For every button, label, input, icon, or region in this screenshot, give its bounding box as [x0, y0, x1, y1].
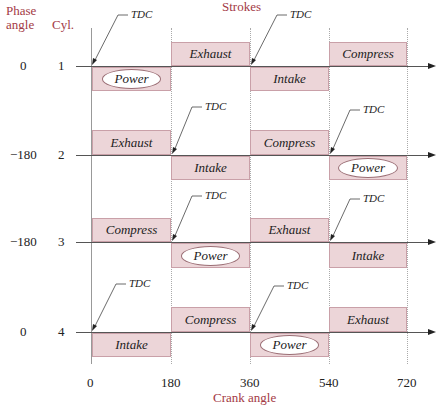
tdc-label: TDC: [287, 279, 308, 291]
tdc-label: TDC: [129, 277, 150, 289]
tdc-pointer-icon: [0, 0, 441, 409]
